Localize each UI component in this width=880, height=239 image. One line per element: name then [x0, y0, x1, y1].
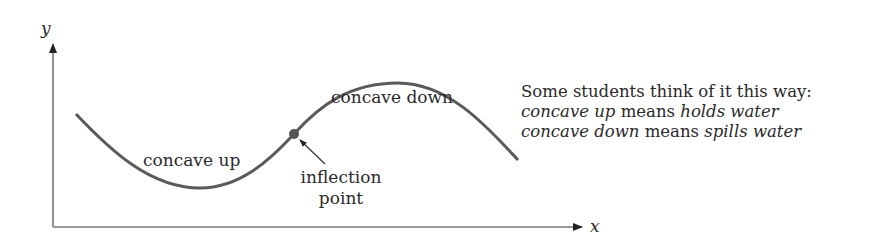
inflection-point-marker	[289, 129, 299, 139]
x-axis-label: x	[590, 216, 600, 236]
y-axis-label: y	[41, 18, 51, 38]
inflection-label-line1: inflection	[286, 167, 396, 188]
inflection-label-line2: point	[286, 188, 396, 209]
mnemonic-note: Some students think of it this way: conc…	[521, 82, 812, 142]
concave-up-label: concave up	[143, 150, 240, 170]
inflection-point-label: inflection point	[286, 167, 396, 209]
inflection-pointer-arrow	[300, 140, 325, 164]
concave-down-label: concave down	[331, 87, 453, 107]
note-line-concave-down: concave down means spills water	[521, 122, 812, 142]
note-line-concave-up: concave up means holds water	[521, 102, 812, 122]
note-heading: Some students think of it this way:	[521, 82, 812, 102]
